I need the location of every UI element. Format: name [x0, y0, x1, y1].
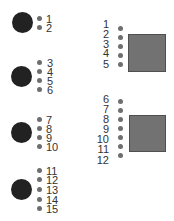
pin-dot	[37, 16, 42, 21]
pin-dot	[118, 62, 123, 67]
pin-dot	[37, 87, 42, 92]
circle-icon	[11, 122, 32, 143]
pin-dot	[37, 197, 42, 202]
circle-icon	[11, 66, 32, 87]
pin-dot	[37, 177, 42, 182]
pin-dot	[118, 153, 123, 158]
pin-label: 12	[95, 155, 109, 165]
pin-dot	[118, 144, 123, 149]
pin-dot	[118, 99, 123, 104]
square-icon	[128, 34, 166, 72]
pin-label: 6	[47, 85, 53, 95]
pin-dot	[37, 25, 42, 30]
pin-dot	[118, 126, 123, 131]
pin-label: 15	[46, 204, 58, 214]
pin-dot	[118, 108, 123, 113]
pin-dot	[37, 78, 42, 83]
pin-dot	[118, 135, 123, 140]
pin-dot	[37, 135, 42, 140]
pin-dot	[37, 144, 42, 149]
pin-dot	[37, 60, 42, 65]
pin-dot	[118, 35, 123, 40]
square-icon	[129, 115, 166, 152]
pin-label: 4	[95, 48, 109, 58]
pin-label: 2	[46, 23, 52, 33]
pin-dot	[37, 168, 42, 173]
pin-dot	[37, 126, 42, 131]
pin-dot	[37, 187, 42, 192]
pin-dot	[118, 44, 123, 49]
circle-icon	[12, 12, 33, 33]
pin-dot	[37, 206, 42, 211]
pin-dot	[118, 117, 123, 122]
pin-dot	[37, 69, 42, 74]
circle-icon	[11, 179, 32, 200]
pin-label: 5	[95, 59, 109, 69]
pin-dot	[118, 26, 123, 31]
pin-label: 11	[95, 144, 109, 154]
pin-dot	[37, 117, 42, 122]
pin-dot	[118, 53, 123, 58]
pin-label: 10	[46, 142, 58, 152]
